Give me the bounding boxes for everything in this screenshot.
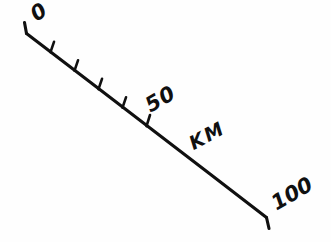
scale-bar-start-cap xyxy=(25,23,27,34)
scale-bar-tick-50 xyxy=(147,115,151,126)
scale-bar-tick-30 xyxy=(99,79,103,89)
scale-bar-tick-10 xyxy=(51,42,55,52)
scale-bar-end-cap xyxy=(267,218,270,229)
scale-bar-tick-20 xyxy=(75,60,79,70)
map-scale-bar-figure: 0 50 KM 100 xyxy=(0,0,331,242)
scale-bar-tick-40 xyxy=(123,97,127,107)
